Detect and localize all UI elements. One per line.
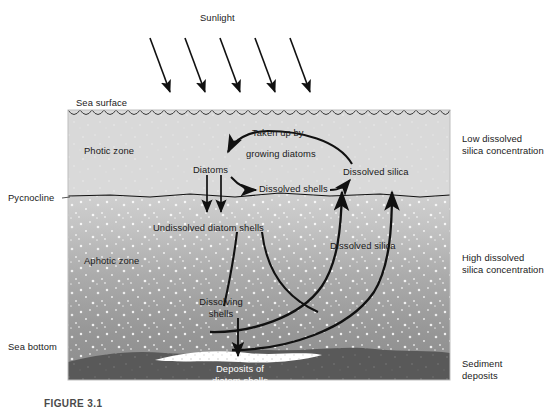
- dissolved-shells-label: Dissolved shells: [259, 183, 328, 194]
- taken-up-label-line2: growing diatoms: [246, 148, 316, 159]
- sunlight-ray-4: [255, 38, 275, 92]
- diatoms-label: Diatoms: [193, 164, 228, 175]
- sunlight-ray-5: [290, 38, 310, 92]
- dissolved-silica-top-label: Dissolved silica: [343, 166, 409, 177]
- aphotic-zone-label: Aphotic zone: [84, 255, 139, 266]
- sea-surface-label: Sea surface: [76, 97, 127, 108]
- low-silica-label-line2: silica concentration: [462, 145, 544, 156]
- deposits-label-line2: diatom shells: [178, 375, 302, 386]
- dissolved-silica-mid-label: Dissolved silica: [330, 240, 396, 251]
- dissolving-label-line1: Dissolving: [190, 296, 252, 307]
- sunlight-rays: [150, 38, 310, 92]
- sunlight-ray-3: [220, 38, 240, 92]
- sunlight-ray-1: [150, 38, 170, 92]
- sediment-label-line2: deposits: [462, 370, 498, 381]
- sunlight-label: Sunlight: [200, 12, 235, 23]
- pycnocline-label: Pycnocline: [8, 192, 54, 203]
- high-silica-label-line2: silica concentration: [462, 264, 544, 275]
- sediment-label-line1: Sediment: [462, 358, 502, 369]
- deposits-label-line1: Deposits of: [178, 363, 302, 374]
- undissolved-shells-label: Undissolved diatom shells: [153, 222, 264, 233]
- figure-caption: FIGURE 3.1: [44, 398, 102, 409]
- low-silica-label-line1: Low dissolved: [462, 133, 522, 144]
- sunlight-ray-2: [185, 38, 205, 92]
- sea-bottom-label: Sea bottom: [8, 341, 57, 352]
- taken-up-label-line1: Taken up by: [252, 127, 304, 138]
- diagram-svg: [0, 0, 558, 410]
- dissolving-label-line2: shells: [190, 308, 252, 319]
- photic-zone-label: Photic zone: [84, 145, 134, 156]
- figure-canvas: Sunlight Sea surface Pycnocline Sea bott…: [0, 0, 558, 410]
- high-silica-label-line1: High dissolved: [462, 252, 524, 263]
